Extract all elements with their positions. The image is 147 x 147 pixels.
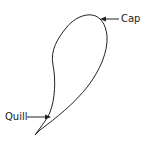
quill-label: Quill xyxy=(5,112,28,122)
diagram: Cap Quill xyxy=(0,0,147,147)
cap-label: Cap xyxy=(121,14,140,24)
cap-arrowhead-icon xyxy=(100,17,106,22)
